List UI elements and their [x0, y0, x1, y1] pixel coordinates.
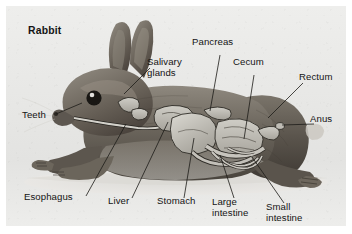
figure-title: Rabbit [28, 26, 62, 37]
label-teeth: Teeth [22, 110, 46, 121]
label-pancreas: Pancreas [192, 37, 233, 48]
label-small-intestine: Small intestine [266, 201, 302, 223]
label-esophagus: Esophagus [24, 192, 73, 203]
label-liver: Liver [108, 196, 129, 207]
leader-cecum [244, 75, 254, 139]
leader-stomach [184, 138, 194, 198]
illustration-panel: Rabbit Salivary glands Teeth Pancreas Ce… [6, 6, 346, 226]
leader-esophagus [86, 124, 126, 196]
label-anus: Anus [310, 114, 332, 125]
leader-rectum [268, 83, 303, 118]
label-stomach: Stomach [157, 196, 195, 207]
leader-liver [132, 122, 168, 198]
figure-root: Rabbit Salivary glands Teeth Pancreas Ce… [0, 0, 352, 234]
leader-large-intestine [220, 155, 234, 198]
label-salivary-glands: Salivary glands [147, 56, 182, 78]
leader-small-intestine [252, 157, 284, 203]
label-large-intestine: Large intestine [212, 196, 248, 218]
label-rectum: Rectum [299, 72, 333, 83]
leader-pancreas [210, 55, 220, 111]
leader-teeth [56, 103, 82, 114]
label-cecum: Cecum [233, 57, 264, 68]
